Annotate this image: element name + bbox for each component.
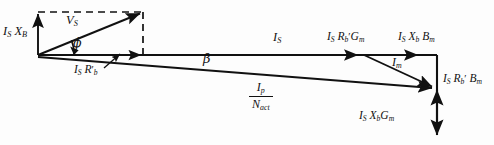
label-ip-over-nact: Ip Nact	[249, 81, 273, 112]
label-vs: VS	[66, 14, 78, 29]
vector-vs	[38, 14, 140, 56]
label-is-xb-vertical: IS XB	[3, 25, 27, 40]
label-is-rb-prime-bm: IS Rb′ Bm	[443, 73, 482, 86]
label-is-rb-prime: IS R′b	[74, 64, 98, 77]
label-im: Im	[392, 56, 402, 70]
label-is-xb-gm: IS XbGm	[359, 110, 394, 123]
label-is: IS	[273, 31, 281, 46]
fraction-numerator: Ip	[249, 81, 273, 96]
label-is-rb-prime-gm: IS Rb′Gm	[327, 31, 364, 44]
phasor-diagram: IS XB VS ϕ IS R′b β IS IS Rb′Gm IS Xb Bm…	[0, 0, 494, 145]
leader-line-is-rb-prime	[104, 54, 120, 68]
label-beta: β	[203, 52, 211, 65]
label-phi: ϕ	[73, 37, 82, 50]
label-is-xb-bm: IS Xb Bm	[398, 31, 435, 44]
fraction-denominator: Nact	[249, 96, 273, 112]
